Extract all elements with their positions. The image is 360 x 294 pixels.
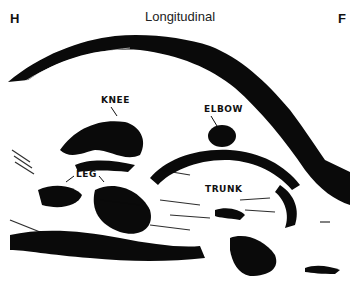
label-pointer-arrows <box>0 0 360 294</box>
